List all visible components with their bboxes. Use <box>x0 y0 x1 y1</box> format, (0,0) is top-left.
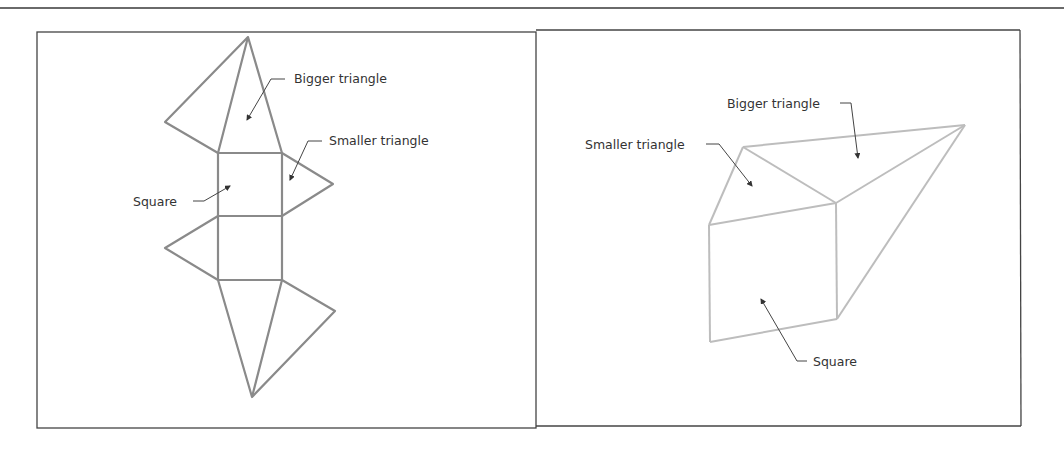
net-square-upper <box>218 153 282 216</box>
right-label-bigger-triangle: Bigger triangle <box>727 96 820 111</box>
right-labels <box>706 103 858 361</box>
prism-diagram <box>709 125 965 342</box>
net-square-lower <box>218 216 282 280</box>
net-smaller-triangle-right <box>282 153 333 216</box>
net-bigger-triangle-bottom <box>218 280 282 397</box>
left-label-square: Square <box>133 194 177 209</box>
net-smaller-triangle-left <box>165 216 218 280</box>
right-label-smaller-triangle: Smaller triangle <box>585 137 685 152</box>
left-labels <box>193 79 322 201</box>
net-smaller-triangle-bottom-right <box>252 280 335 397</box>
left-panel-frame <box>37 32 536 428</box>
right-label-square: Square <box>813 354 857 369</box>
net-smaller-triangle-top-left <box>165 37 248 153</box>
net-diagram <box>165 37 335 397</box>
figure: Bigger triangle Smaller triangle Square … <box>0 0 1064 451</box>
left-label-smaller-triangle: Smaller triangle <box>329 133 429 148</box>
right-panel-frame <box>536 30 1021 426</box>
net-bigger-triangle-top <box>218 37 282 153</box>
left-label-bigger-triangle: Bigger triangle <box>294 71 387 86</box>
